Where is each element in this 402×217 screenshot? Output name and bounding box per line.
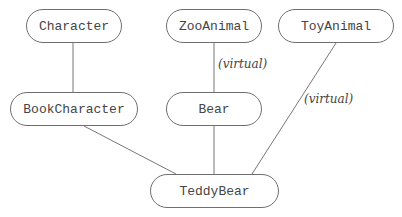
node-toyanimal: ToyAnimal [278, 9, 394, 43]
node-bear: Bear [166, 92, 262, 126]
edge-label-toy-teddy: (virtual) [304, 92, 353, 106]
edge-bookcharacter-teddybear [84, 126, 176, 174]
node-character: Character [26, 9, 122, 43]
node-teddybear: TeddyBear [150, 174, 279, 208]
node-bookcharacter: BookCharacter [10, 92, 138, 126]
node-zooanimal: ZooAnimal [166, 9, 262, 43]
edge-label-zoo-bear: (virtual) [218, 57, 267, 71]
